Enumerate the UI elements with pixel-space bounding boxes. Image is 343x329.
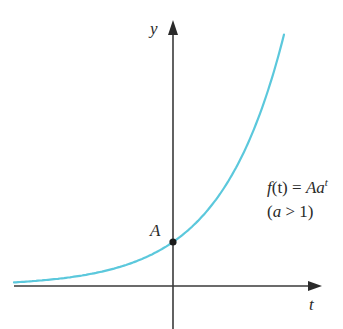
condition-label: (a > 1) xyxy=(267,203,313,220)
t-axis-arrowhead xyxy=(308,281,322,291)
cond-var: a xyxy=(273,202,282,221)
eq-exponent: t xyxy=(325,176,328,188)
eq-arg: (t) = xyxy=(272,178,306,197)
exponential-curve xyxy=(14,35,284,283)
t-axis-label: t xyxy=(309,296,314,313)
function-equation-label: f(t) = Aat xyxy=(267,177,328,196)
point-a-label: A xyxy=(150,222,160,239)
y-axis-arrowhead xyxy=(168,20,178,35)
eq-rhs: Aa xyxy=(306,178,325,197)
exponential-growth-chart xyxy=(0,0,343,329)
y-axis-label: y xyxy=(150,20,158,37)
point-a-marker xyxy=(169,238,176,245)
eq-arg-text: (t) = xyxy=(272,178,306,197)
cond-rest: > 1) xyxy=(281,202,313,221)
